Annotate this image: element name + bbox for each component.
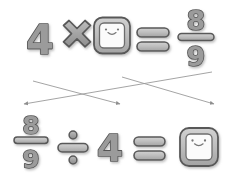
top-fraction-numerator: 8 [187,5,206,36]
arrow-right-to-left [24,72,212,104]
face-eye-right [204,139,206,141]
divide-dot-bottom [69,156,77,164]
top-equals-icon [137,28,169,51]
face-eye-left [105,28,107,30]
arrow-group [24,72,214,104]
bottom-fraction-numerator: 8 [22,111,39,140]
arrow-left-to-right [122,77,214,104]
equation-illustration: 4 [0,0,228,191]
bottom-fraction: 8 9 [14,111,48,174]
bottom-equals-icon [134,137,165,160]
top-fraction: 8 9 [178,5,214,72]
face-eye-right [117,28,119,30]
top-four-label: 4 [26,17,54,63]
answer-box-inner[interactable] [100,23,125,48]
top-answer-box[interactable] [94,18,130,54]
top-number-four: 4 [26,17,54,63]
divide-icon [58,131,88,164]
answer-box-inner[interactable] [186,134,212,160]
bottom-four-label: 4 [97,126,123,170]
top-fraction-bar [178,34,214,41]
face-eye-left [191,139,193,141]
bottom-number-four: 4 [97,126,123,170]
divide-dot-top [69,131,77,139]
bottom-fraction-denominator: 9 [22,145,39,174]
bottom-answer-box[interactable] [180,128,218,166]
worksheet-canvas: 4 [0,0,228,191]
bottom-fraction-bar [14,137,48,144]
divide-bar [58,144,88,153]
top-equation-row: 4 [26,5,214,72]
bottom-equation-row: 8 9 4 [14,111,218,174]
top-fraction-denominator: 9 [187,41,206,72]
multiply-icon [64,21,91,47]
